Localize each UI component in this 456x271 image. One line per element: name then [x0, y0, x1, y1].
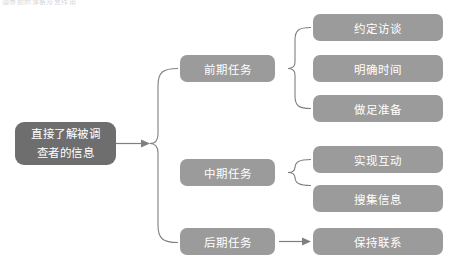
node-branch-2-child-2[interactable]: 搜集信息 — [313, 185, 443, 212]
node-branch-1-child-3-label: 做足准备 — [313, 101, 443, 117]
node-root-label: 直接了解被调 查者的信息 — [15, 125, 116, 163]
node-branch-3[interactable]: 后期任务 — [180, 228, 275, 255]
node-branch-3-child-1-label: 保持联系 — [313, 234, 443, 250]
node-branch-1-child-1[interactable]: 约定访谈 — [313, 14, 443, 41]
node-branch-2-child-1[interactable]: 实现互动 — [313, 146, 443, 173]
node-branch-1-child-2[interactable]: 明确时间 — [313, 55, 443, 82]
node-branch-1-child-1-label: 约定访谈 — [313, 20, 443, 36]
diagram-canvas: 调查前的准备及其作用 直接了解被调 查者的信息 前期任务 中期任务 后期任务 约… — [0, 0, 456, 271]
page-top-text-fragment: 调查前的准备及其作用 — [2, 0, 120, 5]
node-branch-2-child-2-label: 搜集信息 — [313, 191, 443, 207]
node-branch-2-child-1-label: 实现互动 — [313, 152, 443, 168]
node-branch-2-label: 中期任务 — [180, 165, 275, 181]
node-branch-3-label: 后期任务 — [180, 234, 275, 250]
branch-2-brace-connector — [288, 160, 311, 186]
node-branch-1-child-2-label: 明确时间 — [313, 61, 443, 77]
branch-1-brace-connector — [288, 28, 311, 109]
node-branch-1[interactable]: 前期任务 — [180, 55, 275, 82]
node-branch-3-child-1[interactable]: 保持联系 — [313, 228, 443, 255]
root-brace-connector — [150, 69, 178, 243]
branch-3-arrow-head — [302, 238, 311, 246]
node-root-label-line1: 直接了解被调 — [31, 127, 100, 141]
node-branch-2[interactable]: 中期任务 — [180, 159, 275, 186]
node-branch-1-label: 前期任务 — [180, 61, 275, 77]
node-root[interactable]: 直接了解被调 查者的信息 — [15, 122, 116, 165]
root-to-brace-arrow-head — [141, 140, 150, 148]
node-root-label-line2: 查者的信息 — [37, 146, 95, 160]
node-branch-1-child-3[interactable]: 做足准备 — [313, 95, 443, 122]
